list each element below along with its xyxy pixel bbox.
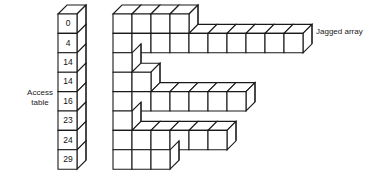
jagged-array (113, 5, 312, 169)
jagged-array-cell (151, 33, 170, 52)
cube-front-face (132, 150, 151, 169)
access-table-label-line1: Access (19, 88, 61, 98)
jagged-array-cell (113, 92, 132, 111)
cube-front-face (132, 14, 151, 33)
cube-front-face (208, 130, 227, 149)
access-table-cell-value: 0 (59, 18, 77, 28)
jagged-array-figure: Access table Jagged array 04141416232429 (0, 0, 392, 194)
access-table-cell-value: 24 (59, 135, 77, 145)
cube-front-face (189, 130, 208, 149)
cube-front-face (113, 72, 132, 91)
cube-front-face (132, 130, 151, 149)
cube-front-face (113, 33, 132, 52)
cube-front-face (113, 14, 132, 33)
cube-front-face (113, 150, 132, 169)
cube-front-face (113, 111, 132, 130)
cube-front-face (170, 33, 189, 52)
jagged-array-cell (113, 130, 132, 149)
cube-front-face (227, 33, 246, 52)
cube-front-face (208, 92, 227, 111)
access-table-cell-value: 14 (59, 76, 77, 86)
access-table-cell-value: 23 (59, 115, 77, 125)
jagged-array-cell (113, 33, 132, 52)
cube-front-face (170, 14, 189, 33)
access-table-cell-value: 4 (59, 38, 77, 48)
access-table-label-line2: table (19, 98, 61, 108)
cube-front-face (151, 130, 170, 149)
cube-front-face (189, 33, 208, 52)
cube-front-face (151, 33, 170, 52)
cube-front-face (227, 92, 246, 111)
jagged-array-label: Jagged array (316, 27, 363, 37)
cube-front-face (151, 92, 170, 111)
jagged-array-cell (113, 150, 132, 169)
jagged-array-cell (227, 83, 255, 111)
cube-front-face (151, 14, 170, 33)
access-table-cell-value: 16 (59, 96, 77, 106)
cube-front-face (170, 92, 189, 111)
cube-front-face (246, 33, 265, 52)
cube-front-face (151, 150, 170, 169)
cube-front-face (113, 53, 132, 72)
cube-front-face (208, 33, 227, 52)
jagged-array-cell (170, 33, 189, 52)
access-table-label: Access table (19, 88, 61, 108)
jagged-array-cell (132, 150, 151, 169)
cube-front-face (113, 92, 132, 111)
cube-front-face (113, 130, 132, 149)
access-table-cell-value: 14 (59, 57, 77, 67)
jagged-array-cell (113, 72, 132, 91)
access-table-cell-value: 29 (59, 154, 77, 164)
jagged-array-cell (208, 121, 236, 149)
jagged-array-cell (284, 24, 312, 52)
cube-front-face (284, 33, 303, 52)
cube-front-face (132, 72, 151, 91)
cube-front-face (189, 92, 208, 111)
cube-front-face (265, 33, 284, 52)
